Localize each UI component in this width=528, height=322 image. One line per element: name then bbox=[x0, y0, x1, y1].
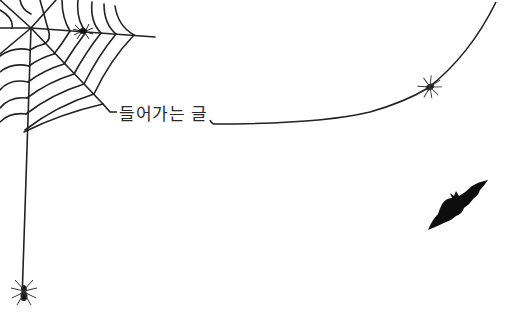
spider-web-icon bbox=[0, 0, 155, 300]
intro-title-label: 들어가는 글 bbox=[117, 104, 209, 124]
thread-to-corner bbox=[210, 2, 496, 124]
halloween-intro-canvas: 들어가는 글 bbox=[0, 0, 528, 322]
decorative-artwork bbox=[0, 0, 528, 322]
spider-icon bbox=[11, 280, 37, 305]
bat-icon bbox=[428, 180, 488, 230]
thread-to-label bbox=[103, 104, 118, 112]
